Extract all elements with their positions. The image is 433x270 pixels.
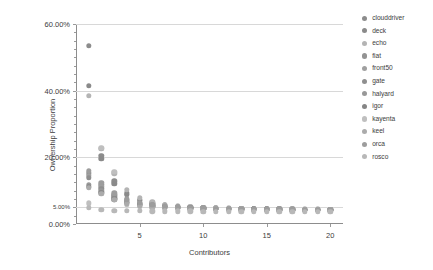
data-point bbox=[315, 209, 320, 214]
data-point bbox=[86, 83, 91, 88]
data-point bbox=[99, 156, 104, 161]
data-point bbox=[277, 209, 282, 214]
legend-marker-icon bbox=[362, 116, 367, 121]
data-point bbox=[200, 209, 205, 214]
y-minor-tick bbox=[74, 41, 76, 42]
x-tick-label: 20 bbox=[326, 231, 334, 240]
y-minor-tick bbox=[74, 74, 76, 75]
data-point bbox=[289, 209, 294, 214]
y-tick bbox=[73, 157, 76, 158]
legend-marker-icon bbox=[362, 41, 367, 46]
data-point bbox=[86, 93, 91, 98]
x-tick-label: 5 bbox=[137, 231, 141, 240]
x-tick-label: 10 bbox=[199, 231, 207, 240]
data-point bbox=[162, 209, 167, 214]
data-point bbox=[302, 209, 307, 214]
gridline bbox=[76, 24, 343, 25]
y-minor-tick bbox=[74, 132, 76, 133]
x-tick bbox=[140, 224, 141, 227]
scatter-chart-figure: Ownership Proportion 0.00%5.00%20.00%40.… bbox=[0, 0, 433, 270]
gridline bbox=[76, 91, 343, 92]
legend-label: rosco bbox=[372, 154, 388, 161]
legend-item-clouddriver[interactable]: clouddriver bbox=[362, 12, 432, 25]
y-minor-tick bbox=[74, 82, 76, 83]
legend-marker-icon bbox=[362, 28, 367, 33]
legend-marker-icon bbox=[362, 16, 367, 21]
data-point bbox=[111, 208, 116, 213]
y-minor-tick bbox=[74, 182, 76, 183]
y-minor-tick bbox=[74, 124, 76, 125]
y-minor-tick bbox=[74, 216, 76, 217]
y-minor-tick bbox=[74, 149, 76, 150]
data-point bbox=[124, 208, 129, 213]
legend-label: igor bbox=[372, 103, 383, 110]
data-point bbox=[213, 209, 218, 214]
data-point bbox=[150, 209, 155, 214]
legend-item-rosco[interactable]: rosco bbox=[362, 151, 432, 164]
y-tick-label: 60.00% bbox=[45, 20, 70, 29]
legend-marker-icon bbox=[362, 91, 367, 96]
data-point bbox=[111, 181, 116, 186]
y-minor-tick bbox=[74, 174, 76, 175]
data-point bbox=[251, 209, 256, 214]
legend-item-fiat[interactable]: fiat bbox=[362, 50, 432, 63]
data-point bbox=[137, 208, 142, 213]
legend-item-deck[interactable]: deck bbox=[362, 25, 432, 38]
legend-marker-icon bbox=[362, 53, 367, 58]
data-point bbox=[86, 205, 91, 210]
legend-label: front50 bbox=[372, 65, 393, 72]
y-tick-label: 40.00% bbox=[45, 86, 70, 95]
data-point bbox=[86, 185, 91, 190]
legend-item-kayenta[interactable]: kayenta bbox=[362, 113, 432, 126]
y-tick bbox=[73, 24, 76, 25]
y-tick-label: 20.00% bbox=[45, 153, 70, 162]
legend-item-halyard[interactable]: halyard bbox=[362, 88, 432, 101]
chart-legend: clouddriverdeckechofiatfront50gatehalyar… bbox=[362, 12, 432, 163]
y-minor-tick bbox=[74, 199, 76, 200]
data-point bbox=[86, 175, 91, 180]
y-minor-tick bbox=[74, 57, 76, 58]
legend-item-orca[interactable]: orca bbox=[362, 138, 432, 151]
y-minor-tick bbox=[74, 66, 76, 67]
x-tick bbox=[203, 224, 204, 227]
legend-item-keel[interactable]: keel bbox=[362, 125, 432, 138]
y-axis-line bbox=[76, 24, 77, 224]
legend-label: halyard bbox=[372, 91, 394, 98]
legend-marker-icon bbox=[362, 66, 367, 71]
data-point bbox=[328, 209, 333, 214]
legend-label: kayenta bbox=[372, 116, 395, 123]
legend-marker-icon bbox=[362, 79, 367, 84]
y-minor-tick bbox=[74, 191, 76, 192]
y-minor-tick bbox=[74, 116, 76, 117]
data-point bbox=[111, 197, 116, 202]
legend-label: keel bbox=[372, 128, 384, 135]
legend-label: orca bbox=[372, 141, 385, 148]
y-tick bbox=[73, 224, 76, 225]
legend-label: deck bbox=[372, 28, 386, 35]
y-tick bbox=[73, 207, 76, 208]
y-tick bbox=[73, 91, 76, 92]
data-point bbox=[99, 207, 104, 212]
y-minor-tick bbox=[74, 32, 76, 33]
legend-item-front50[interactable]: front50 bbox=[362, 62, 432, 75]
x-tick-label: 15 bbox=[263, 231, 271, 240]
legend-marker-icon bbox=[362, 142, 367, 147]
data-point bbox=[239, 209, 244, 214]
legend-marker-icon bbox=[362, 154, 367, 159]
data-point bbox=[264, 209, 269, 214]
y-tick-label: 0.00% bbox=[49, 220, 70, 229]
data-point bbox=[188, 209, 193, 214]
y-minor-tick bbox=[74, 49, 76, 50]
gridline bbox=[76, 157, 343, 158]
data-point bbox=[99, 191, 104, 196]
legend-item-gate[interactable]: gate bbox=[362, 75, 432, 88]
x-axis-line bbox=[76, 223, 343, 224]
y-minor-tick bbox=[74, 107, 76, 108]
legend-label: gate bbox=[372, 78, 385, 85]
y-minor-tick bbox=[74, 99, 76, 100]
y-tick-label: 5.00% bbox=[53, 204, 70, 210]
legend-item-igor[interactable]: igor bbox=[362, 100, 432, 113]
legend-item-echo[interactable]: echo bbox=[362, 37, 432, 50]
x-tick bbox=[267, 224, 268, 227]
legend-label: fiat bbox=[372, 53, 381, 60]
